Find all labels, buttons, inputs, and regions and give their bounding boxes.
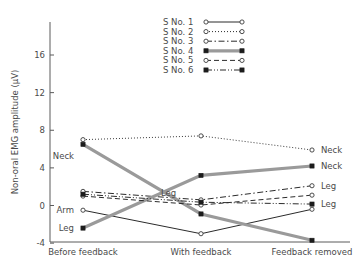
- y-tick-label: 12: [34, 88, 45, 98]
- data-point: [310, 207, 314, 211]
- series-s-no--4b: [81, 142, 314, 242]
- legend-item: S No. 6: [163, 65, 244, 75]
- series-s-no--3: [81, 184, 314, 202]
- point-annotation: Neck: [321, 145, 342, 155]
- series-s-no--4: [81, 164, 314, 230]
- legend-marker: [240, 39, 244, 43]
- series-line: [83, 144, 312, 240]
- data-point: [81, 208, 85, 212]
- legend-item: S No. 3: [163, 36, 244, 46]
- legend-label: S No. 1: [163, 17, 193, 27]
- legend-marker: [240, 30, 244, 34]
- data-point: [310, 238, 314, 242]
- legend-label: S No. 4: [163, 46, 193, 56]
- data-point: [199, 232, 203, 236]
- y-tick-label: -4: [37, 238, 45, 248]
- legend-item: S No. 4: [163, 46, 244, 56]
- legend-marker: [204, 49, 208, 53]
- point-annotation: Leg: [59, 223, 74, 233]
- legend-marker: [204, 68, 208, 72]
- data-point: [81, 142, 85, 146]
- legend-marker: [240, 20, 244, 24]
- data-point: [81, 138, 85, 142]
- legend-item: S No. 1: [163, 17, 244, 27]
- point-annotation: Leg: [161, 188, 176, 198]
- legend-label: S No. 6: [163, 65, 193, 75]
- data-point: [310, 164, 314, 168]
- legend-marker: [204, 39, 208, 43]
- x-tick-label: Before feedback: [48, 247, 118, 257]
- series-line: [83, 136, 312, 150]
- legend-label: S No. 5: [163, 55, 193, 65]
- annotation-layer: NeckArmLegLegNeckNeckLegLeg: [53, 145, 342, 233]
- legend-marker: [240, 58, 244, 62]
- legend-marker: [204, 20, 208, 24]
- point-annotation: Neck: [53, 151, 74, 161]
- chart-root: -40481216Non-oral EMG amplitude (µV)Befo…: [0, 0, 362, 269]
- x-tick-label: Feedback removed: [272, 247, 353, 257]
- legend-label: S No. 2: [163, 27, 193, 37]
- data-point: [81, 192, 85, 196]
- legend-marker: [240, 49, 244, 53]
- data-point: [199, 173, 203, 177]
- legend-marker: [204, 58, 208, 62]
- point-annotation: Arm: [57, 205, 74, 215]
- legend: S No. 1S No. 2S No. 3S No. 4S No. 5S No.…: [163, 17, 244, 75]
- legend-marker: [240, 68, 244, 72]
- data-point: [310, 202, 314, 206]
- data-point: [310, 193, 314, 197]
- legend-marker: [204, 30, 208, 34]
- emg-line-chart: -40481216Non-oral EMG amplitude (µV)Befo…: [0, 0, 362, 269]
- data-point: [310, 184, 314, 188]
- y-tick-label: 0: [40, 201, 45, 211]
- legend-item: S No. 2: [163, 27, 244, 37]
- legend-item: S No. 5: [163, 55, 244, 65]
- y-tick-label: 16: [34, 50, 45, 60]
- series-s-no--2: [81, 134, 314, 152]
- axis-frame: [50, 22, 350, 242]
- series-line: [83, 166, 312, 228]
- y-tick-label: 4: [40, 163, 45, 173]
- y-axis-title: Non-oral EMG amplitude (µV): [10, 70, 20, 195]
- data-point: [199, 200, 203, 204]
- legend-label: S No. 3: [163, 36, 193, 46]
- x-tick-label: With feedback: [170, 247, 231, 257]
- data-point: [81, 226, 85, 230]
- y-tick-label: 8: [40, 125, 45, 135]
- data-point: [199, 134, 203, 138]
- point-annotation: Leg: [321, 199, 336, 209]
- point-annotation: Leg: [321, 181, 336, 191]
- data-point: [199, 212, 203, 216]
- data-point: [310, 148, 314, 152]
- series-layer: [81, 134, 314, 243]
- point-annotation: Neck: [321, 161, 342, 171]
